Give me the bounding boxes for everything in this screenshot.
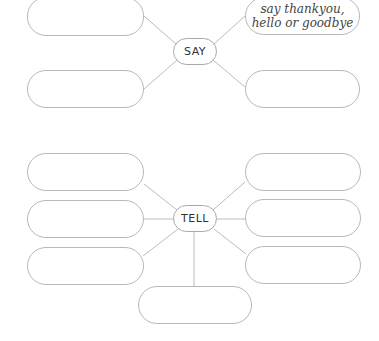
say-branch-bottom-left[interactable] (27, 70, 144, 108)
connector-say-bottom-left (144, 60, 177, 89)
tell-branch-left-1[interactable] (27, 153, 144, 191)
connector-say-top-right (214, 16, 245, 44)
word-map-diagram: say thankyou, hello or goodbye SAY TELL (0, 0, 379, 341)
say-branch-text: say thankyou, hello or goodbye (252, 2, 354, 30)
say-hub-label: SAY (184, 45, 206, 58)
connector-tell-right-3 (214, 229, 246, 254)
say-hub: SAY (173, 38, 217, 65)
tell-hub: TELL (173, 205, 217, 232)
tell-hub-label: TELL (181, 212, 209, 225)
connector-tell-left-3 (143, 229, 178, 256)
say-branch-top-right[interactable]: say thankyou, hello or goodbye (245, 0, 360, 35)
connector-tell-right-1 (213, 182, 245, 210)
tell-branch-left-3[interactable] (27, 247, 144, 285)
connector-say-bottom-right (213, 60, 245, 87)
tell-branch-bottom[interactable] (138, 286, 252, 324)
say-branch-top-left[interactable] (27, 0, 144, 36)
tell-branch-right-1[interactable] (245, 153, 361, 191)
connector-say-top-left (144, 16, 176, 44)
tell-branch-left-2[interactable] (27, 200, 144, 238)
tell-branch-right-3[interactable] (245, 246, 361, 284)
say-branch-bottom-right[interactable] (245, 70, 360, 108)
tell-branch-right-2[interactable] (245, 199, 361, 237)
connector-tell-left-1 (144, 184, 177, 210)
